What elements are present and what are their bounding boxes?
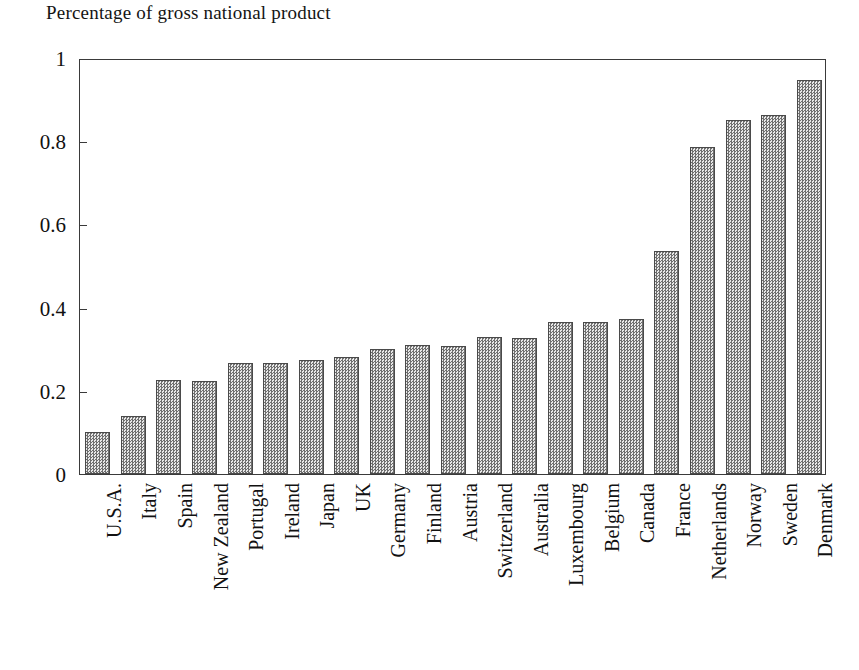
plot-area xyxy=(79,59,826,475)
x-tick-label: Canada xyxy=(637,483,657,543)
bar xyxy=(512,338,537,474)
bar xyxy=(192,381,217,474)
x-tick-label: France xyxy=(673,483,693,537)
bar xyxy=(654,251,679,474)
bar xyxy=(85,432,110,474)
bar xyxy=(299,360,324,474)
y-tick-mark xyxy=(79,309,87,310)
bars-layer xyxy=(80,60,825,474)
bar xyxy=(441,346,466,474)
x-tick-label: Ireland xyxy=(282,483,302,540)
bar xyxy=(228,363,253,474)
x-tick-label: Norway xyxy=(744,483,764,547)
y-tick-label: 1 xyxy=(56,47,67,72)
bar xyxy=(121,416,146,474)
x-tick-label: Sweden xyxy=(780,483,800,546)
bar xyxy=(583,322,608,474)
bar xyxy=(263,363,288,474)
bar xyxy=(797,80,822,474)
bar xyxy=(761,115,786,474)
x-tick-label: Portugal xyxy=(246,483,266,551)
x-tick-label: Japan xyxy=(317,483,337,529)
bar xyxy=(405,345,430,474)
y-tick-mark xyxy=(79,392,87,393)
y-axis: 00.20.40.60.81 xyxy=(0,0,79,540)
x-tick-label: Netherlands xyxy=(709,483,729,580)
x-axis: U.S.A.ItalySpainNew ZealandPortugalIrela… xyxy=(0,475,859,670)
x-tick-label: Belgium xyxy=(602,483,622,552)
chart-title: Percentage of gross national product xyxy=(46,2,331,24)
bar xyxy=(619,319,644,474)
y-tick-label: 0.4 xyxy=(40,296,66,321)
y-tick-mark xyxy=(79,225,87,226)
x-tick-label: U.S.A. xyxy=(104,483,124,538)
bar xyxy=(548,322,573,474)
bar xyxy=(477,337,502,474)
x-tick-label: Italy xyxy=(139,483,159,520)
y-tick-label: 0.8 xyxy=(40,130,66,155)
bar xyxy=(370,349,395,474)
bar xyxy=(334,357,359,474)
x-tick-label: Australia xyxy=(531,483,551,556)
bar xyxy=(726,120,751,474)
x-tick-label: Spain xyxy=(175,483,195,529)
x-tick-label: Luxembourg xyxy=(566,483,586,586)
x-tick-label: Finland xyxy=(424,483,444,544)
x-tick-label: Denmark xyxy=(815,483,835,557)
x-tick-label: Germany xyxy=(388,483,408,557)
bar xyxy=(690,147,715,474)
y-tick-mark xyxy=(79,142,87,143)
y-tick-label: 0.6 xyxy=(40,213,66,238)
y-tick-label: 0.2 xyxy=(40,379,66,404)
x-tick-label: Austria xyxy=(460,483,480,542)
x-tick-label: New Zealand xyxy=(211,483,231,590)
bar-chart-figure: Percentage of gross national product 00.… xyxy=(0,0,859,670)
x-tick-label: UK xyxy=(353,483,373,512)
bar xyxy=(156,380,181,474)
x-tick-label: Switzerland xyxy=(495,483,515,579)
